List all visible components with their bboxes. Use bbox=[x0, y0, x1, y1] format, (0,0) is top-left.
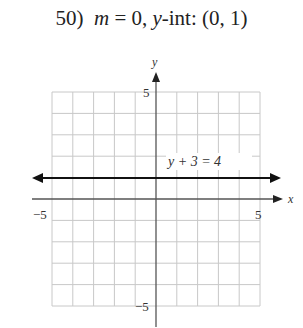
x-min-tick-label: −5 bbox=[33, 207, 47, 222]
right-arrow-icon bbox=[270, 173, 281, 183]
x-max-tick-label: 5 bbox=[255, 207, 262, 222]
y-min-tick-label: −5 bbox=[135, 299, 149, 314]
y-axis-arrow-icon bbox=[152, 72, 160, 82]
equation-label: y + 3 = 4 bbox=[166, 154, 221, 169]
x-axis bbox=[32, 195, 283, 203]
y-max-tick-label: 5 bbox=[143, 85, 150, 100]
x-axis-arrow-icon bbox=[273, 195, 283, 203]
y-axis-label: y bbox=[151, 55, 158, 69]
coordinate-plane: y x 5 −5 −5 5 y + 3 = 4 bbox=[0, 0, 303, 328]
left-arrow-icon bbox=[32, 173, 43, 183]
x-axis-label: x bbox=[287, 192, 294, 206]
